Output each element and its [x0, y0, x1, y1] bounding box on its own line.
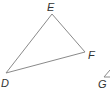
- vertex-label-d: D: [1, 77, 9, 89]
- vertex-label-e: E: [47, 1, 55, 13]
- triangle-diagram: E F D G: [0, 0, 110, 90]
- vertex-label-g: G: [98, 78, 107, 90]
- partial-segment-g: [104, 70, 110, 77]
- triangle-def: [6, 14, 85, 73]
- vertex-label-f: F: [88, 49, 96, 61]
